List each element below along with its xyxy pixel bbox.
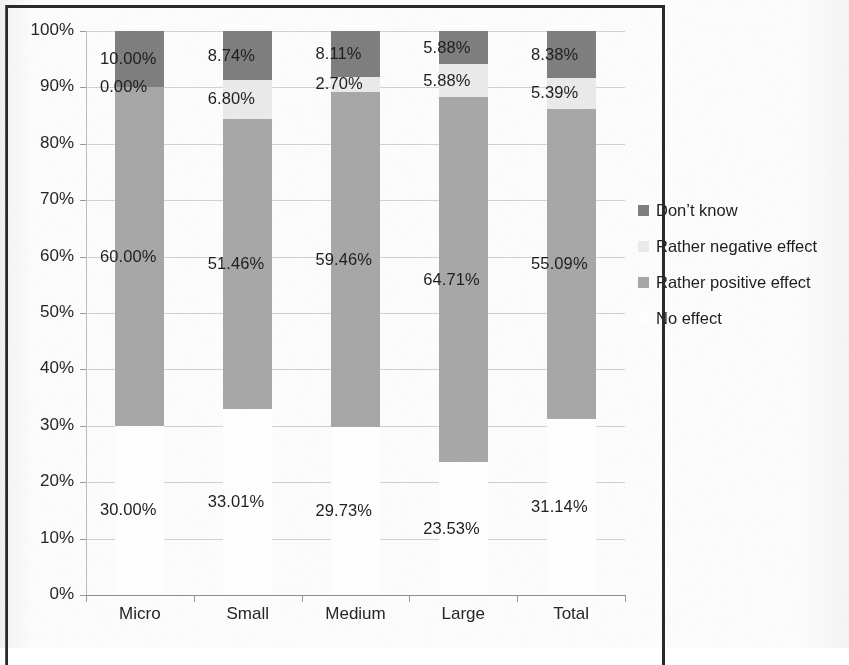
y-axis-tick-label: 90% xyxy=(0,76,74,96)
data-label: 51.46% xyxy=(208,254,265,273)
x-axis-label-micro: Micro xyxy=(86,604,194,624)
y-axis-tick-label: 50% xyxy=(0,302,74,322)
data-label: 8.11% xyxy=(316,44,362,63)
y-axis-tick-label: 10% xyxy=(0,528,74,548)
data-label: 31.14% xyxy=(531,497,588,516)
x-axis-label-medium: Medium xyxy=(302,604,410,624)
y-axis-tick-label: 80% xyxy=(0,133,74,153)
x-axis-tick xyxy=(194,595,195,602)
x-axis-label-large: Large xyxy=(409,604,517,624)
legend-swatch-icon xyxy=(638,205,649,216)
bar-large xyxy=(439,31,488,595)
data-label: 29.73% xyxy=(316,501,373,520)
x-axis-tick xyxy=(625,595,626,602)
legend-swatch-icon xyxy=(638,277,649,288)
y-axis-tick-label: 70% xyxy=(0,189,74,209)
y-axis-tick-label: 40% xyxy=(0,358,74,378)
data-label: 0.00% xyxy=(100,77,147,96)
legend-label: Rather negative effect xyxy=(656,237,817,256)
y-axis-tick-label: 0% xyxy=(0,584,74,604)
data-label: 8.38% xyxy=(531,45,578,64)
legend-label: Don’t know xyxy=(656,201,738,220)
data-label: 23.53% xyxy=(423,519,480,538)
data-label: 6.80% xyxy=(208,89,255,108)
legend-item[interactable]: Don’t know xyxy=(638,192,838,228)
x-axis-tick xyxy=(86,595,87,602)
legend-item[interactable]: Rather positive effect xyxy=(638,264,838,300)
legend-item[interactable]: Rather negative effect xyxy=(638,228,838,264)
x-axis-tick xyxy=(302,595,303,602)
data-label: 5.88% xyxy=(423,71,470,90)
legend-label: Rather positive effect xyxy=(656,273,811,292)
data-label: 33.01% xyxy=(208,492,265,511)
data-label: 8.74% xyxy=(208,46,255,65)
x-axis-label-small: Small xyxy=(194,604,302,624)
y-axis-tick-label: 20% xyxy=(0,471,74,491)
y-axis-tick-label: 100% xyxy=(0,20,74,40)
legend-item[interactable]: No effect xyxy=(638,300,838,336)
x-axis-tick xyxy=(409,595,410,602)
data-label: 64.71% xyxy=(423,270,480,289)
data-label: 5.39% xyxy=(531,83,578,102)
x-axis-tick xyxy=(517,595,518,602)
data-label: 30.00% xyxy=(100,500,157,519)
x-axis-label-total: Total xyxy=(517,604,625,624)
chart-legend: Don’t knowRather negative effectRather p… xyxy=(638,192,838,336)
y-axis-tick-label: 60% xyxy=(0,246,74,266)
data-label: 5.88% xyxy=(423,38,470,57)
plot-area: 30.00%60.00%0.00%10.00%33.01%51.46%6.80%… xyxy=(86,31,625,595)
x-axis-line xyxy=(86,595,625,596)
y-axis-tick-label: 30% xyxy=(0,415,74,435)
data-label: 55.09% xyxy=(531,254,588,273)
legend-swatch-icon xyxy=(638,241,649,252)
data-label: 2.70% xyxy=(316,74,363,93)
legend-label: No effect xyxy=(656,309,722,328)
legend-swatch-icon xyxy=(638,313,649,324)
data-label: 59.46% xyxy=(316,250,373,269)
data-label: 10.00% xyxy=(100,49,157,68)
data-label: 60.00% xyxy=(100,247,157,266)
